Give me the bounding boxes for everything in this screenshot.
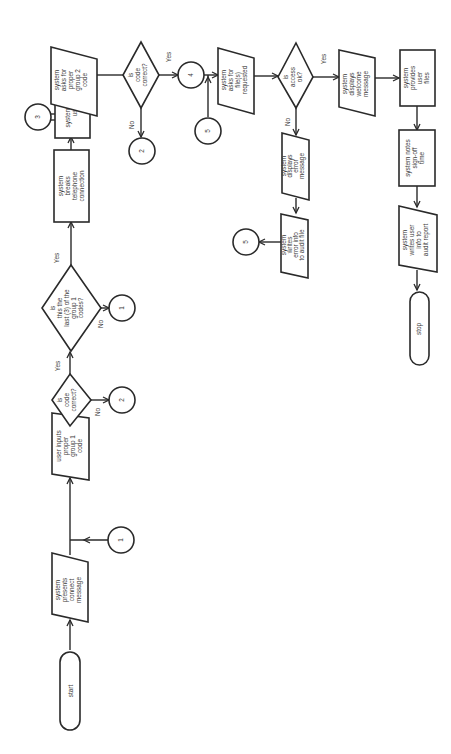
svg-text:5: 5 [204, 129, 211, 133]
connector-3-in: 3 [25, 104, 51, 130]
svg-text:is: is [282, 75, 289, 80]
svg-text:asks for: asks for [227, 68, 234, 91]
svg-text:4: 4 [187, 73, 194, 77]
no-label: No [97, 319, 104, 328]
flowchart: start system presents connect message 1 … [0, 0, 451, 754]
svg-text:code: code [134, 68, 141, 82]
svg-text:code: code [76, 439, 83, 453]
svg-text:message: message [298, 153, 306, 179]
yes-label: Yes [320, 54, 327, 64]
svg-text:message: message [362, 71, 370, 97]
start-label: start [67, 685, 74, 698]
svg-text:access: access [289, 67, 296, 87]
start-terminal: start [60, 652, 80, 730]
svg-text:breaks: breaks [64, 176, 71, 195]
svg-text:asks for: asks for [60, 68, 67, 91]
svg-text:to audit file: to audit file [298, 229, 305, 260]
no-label: No [284, 117, 291, 126]
yes-label: Yes [53, 253, 60, 263]
connector-1-out: 1 [109, 295, 135, 321]
connector-2-out: 2 [109, 387, 135, 413]
user-audit-io: system writes user info to audit report [399, 206, 437, 272]
connector-4: 4 [178, 62, 204, 88]
svg-text:writes user: writes user [408, 224, 415, 257]
svg-text:3: 3 [34, 115, 41, 119]
error-audit-io: system writes error info to audit file [280, 214, 308, 278]
svg-text:message: message [75, 577, 83, 603]
provide-files-process: system provides user files [400, 50, 435, 106]
svg-text:correct?: correct? [70, 388, 77, 412]
svg-text:info to: info to [415, 231, 422, 249]
connector-2-out-b: 2 [129, 138, 155, 164]
svg-text:code: code [63, 393, 70, 407]
svg-text:2: 2 [138, 149, 145, 153]
yes-label: Yes [165, 52, 172, 62]
svg-text:is: is [127, 73, 134, 78]
ask-group2-code-io: system asks for proper group 2 code [51, 47, 97, 116]
no-label: No [94, 407, 101, 416]
svg-text:audit report: audit report [422, 224, 430, 257]
ask-files-io: system asks for file(s) requested [218, 48, 254, 114]
svg-text:code: code [81, 73, 88, 87]
decision-access-ok: is access ok? No Yes [278, 43, 327, 126]
connect-message-io: system presents connect message [52, 553, 88, 622]
svg-text:is: is [49, 306, 56, 311]
connector-1-in: 1 [108, 527, 134, 553]
welcome-message-io: system displays welcome message [339, 50, 375, 116]
break-connection-process: system breaks telephone connection [54, 150, 89, 222]
svg-text:user: user [416, 71, 423, 84]
yes-label: Yes [54, 361, 61, 371]
svg-text:requested: requested [241, 65, 249, 94]
flow-lines [50, 72, 420, 650]
decision-last-group1-code: is this the last (3) of the group 1 code… [42, 253, 104, 351]
stop-terminal: stop [410, 292, 429, 365]
svg-text:1: 1 [118, 306, 125, 310]
signoff-time-process: system notes sign-off time [399, 130, 435, 186]
svg-text:this the: this the [56, 297, 63, 318]
svg-text:files: files [423, 72, 430, 83]
connector-5-out: 5 [233, 229, 259, 255]
svg-text:correct?: correct? [141, 63, 148, 87]
svg-text:codes?: codes? [77, 297, 84, 318]
svg-text:connect: connect [68, 579, 75, 602]
svg-text:is: is [56, 398, 63, 403]
svg-text:time: time [418, 152, 425, 165]
svg-text:1: 1 [117, 538, 124, 542]
connector-5-in: 5 [195, 118, 221, 144]
no-label: No [128, 120, 135, 129]
decision-code-correct-2: is code correct? No Yes [123, 42, 172, 129]
svg-text:5: 5 [242, 240, 249, 244]
svg-text:2: 2 [118, 398, 125, 402]
svg-text:ok?: ok? [296, 71, 303, 82]
svg-text:connection: connection [78, 170, 85, 201]
svg-text:welcome: welcome [355, 71, 362, 98]
stop-label: stop [415, 323, 423, 336]
error-message-io: system displays error message [280, 133, 309, 200]
